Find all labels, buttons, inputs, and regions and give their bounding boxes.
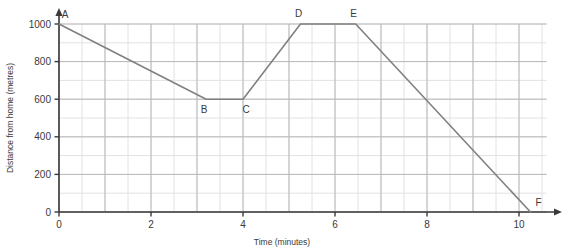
- point-label-a: A: [62, 9, 69, 20]
- y-axis-tick-label: 1000: [29, 19, 52, 30]
- y-axis-title: Distance from home (metres): [5, 63, 15, 173]
- y-axis-tick-label: 800: [34, 56, 51, 67]
- x-axis-tick-label: 6: [332, 219, 338, 230]
- x-axis-tick-label: 10: [513, 219, 525, 230]
- x-axis-tick-label: 0: [56, 219, 62, 230]
- x-axis-tick-label: 2: [148, 219, 154, 230]
- chart-axes: [55, 8, 562, 216]
- x-axis-title: Time (minutes): [254, 237, 311, 247]
- point-label-c: C: [242, 104, 249, 115]
- y-axis-tick-label: 600: [34, 94, 51, 105]
- x-axis-tick-label: 4: [240, 219, 246, 230]
- y-axis-tick-labels: 02004006008001000: [29, 19, 52, 218]
- distance-time-chart: 0246810 02004006008001000 ABCDEF Time (m…: [0, 0, 564, 250]
- y-axis-tick-label: 400: [34, 131, 51, 142]
- x-axis-tick-label: 8: [424, 219, 430, 230]
- x-axis-arrowhead: [554, 208, 562, 215]
- point-label-e: E: [350, 8, 357, 19]
- y-axis-tick-label: 0: [45, 207, 51, 218]
- x-axis-tick-labels: 0246810: [56, 219, 525, 230]
- chart-canvas: 0246810 02004006008001000 ABCDEF Time (m…: [0, 0, 564, 250]
- point-labels: ABCDEF: [62, 8, 542, 208]
- y-axis-tick-label: 200: [34, 169, 51, 180]
- axis-ticks: [55, 24, 520, 217]
- point-label-d: D: [295, 8, 302, 19]
- point-label-f: F: [535, 197, 541, 208]
- point-label-b: B: [201, 104, 208, 115]
